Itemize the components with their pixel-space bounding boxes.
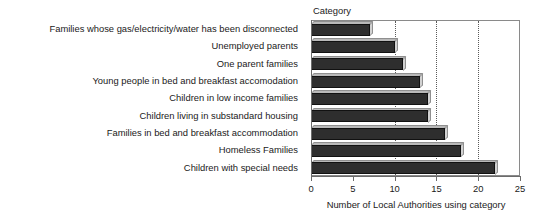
bar-side-face xyxy=(370,21,373,36)
bar xyxy=(311,24,370,36)
bar-row xyxy=(311,56,407,73)
category-label: Unemployed parents xyxy=(211,37,298,54)
bar xyxy=(311,76,420,88)
value-axis-tick xyxy=(478,176,479,181)
category-label: Families in bed and breakfast accommodat… xyxy=(107,124,298,141)
bar-side-face xyxy=(403,56,406,71)
bar-side-face xyxy=(428,108,431,123)
value-axis-tick-label: 25 xyxy=(515,183,525,194)
bar xyxy=(311,145,461,157)
bar xyxy=(311,93,428,105)
value-axis-tick-label: 5 xyxy=(350,183,355,194)
value-axis-tick-label: 10 xyxy=(389,183,399,194)
bar xyxy=(311,58,403,70)
category-axis-line xyxy=(311,20,312,177)
bar-side-face xyxy=(420,73,423,88)
bar-row xyxy=(311,125,449,142)
bar-row xyxy=(311,90,432,107)
bar-row xyxy=(311,160,499,177)
category-label: Children with special needs xyxy=(184,159,298,176)
category-axis-title: Category xyxy=(313,5,351,16)
value-axis-tick-label: 0 xyxy=(308,183,313,194)
category-label: Children in low income families xyxy=(169,89,298,106)
bar-side-face xyxy=(461,142,464,157)
bar-row xyxy=(311,108,432,125)
bar-row xyxy=(311,21,374,38)
plot-area xyxy=(311,20,520,176)
category-label: One parent families xyxy=(217,55,298,72)
bar-side-face xyxy=(445,125,448,140)
value-axis-tick xyxy=(520,176,521,181)
bar-chart: Category Families whose gas/electricity/… xyxy=(0,0,548,222)
bar-row xyxy=(311,142,465,159)
bar-row xyxy=(311,38,399,55)
value-axis-line xyxy=(311,176,521,177)
category-label: Children living in substandard housing xyxy=(140,107,298,124)
bar xyxy=(311,41,395,53)
gridline xyxy=(478,21,479,175)
value-axis-title: Number of Local Authorities using catego… xyxy=(311,199,521,210)
bar-row xyxy=(311,73,424,90)
value-axis-tick xyxy=(395,176,396,181)
category-label: Young people in bed and breakfast accomo… xyxy=(92,72,298,89)
bar xyxy=(311,128,445,140)
value-axis-tick xyxy=(436,176,437,181)
value-axis-tick-label: 15 xyxy=(431,183,441,194)
category-axis-labels: Families whose gas/electricity/water has… xyxy=(0,20,303,176)
value-axis-tick xyxy=(311,176,312,181)
value-axis-tick-label: 20 xyxy=(473,183,483,194)
bar-side-face xyxy=(395,38,398,53)
category-label: Homeless Families xyxy=(219,141,298,158)
bar xyxy=(311,162,495,174)
value-axis-tick xyxy=(353,176,354,181)
category-label: Families whose gas/electricity/water has… xyxy=(49,20,298,37)
bar-side-face xyxy=(495,160,498,175)
bar-side-face xyxy=(428,90,431,105)
bar xyxy=(311,110,428,122)
